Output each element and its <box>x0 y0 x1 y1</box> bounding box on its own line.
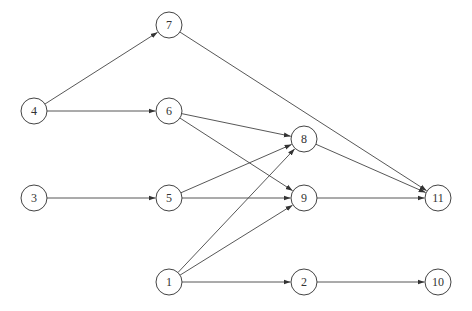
node-label: 4 <box>31 104 37 118</box>
node-5: 5 <box>156 185 182 211</box>
node-10: 10 <box>425 269 451 295</box>
node-label: 2 <box>301 275 307 289</box>
node-label: 5 <box>166 191 172 205</box>
edge-4-to-7 <box>45 32 158 104</box>
node-label: 3 <box>31 191 37 205</box>
node-label: 10 <box>432 275 444 289</box>
node-label: 7 <box>166 18 172 32</box>
graph-canvas: 1234567891011 <box>0 0 472 311</box>
edge-5-to-8 <box>181 144 292 192</box>
edge-6-to-8 <box>182 114 291 137</box>
node-1: 1 <box>156 269 182 295</box>
edge-7-to-11 <box>180 32 427 191</box>
node-label: 8 <box>301 132 307 146</box>
edges-layer <box>45 32 427 282</box>
node-11: 11 <box>425 185 451 211</box>
node-3: 3 <box>21 185 47 211</box>
nodes-layer: 1234567891011 <box>21 12 451 295</box>
directed-graph: 1234567891011 <box>0 0 472 311</box>
node-2: 2 <box>291 269 317 295</box>
node-4: 4 <box>21 98 47 124</box>
node-label: 11 <box>432 191 444 205</box>
node-7: 7 <box>156 12 182 38</box>
node-label: 1 <box>166 275 172 289</box>
node-9: 9 <box>291 185 317 211</box>
node-8: 8 <box>291 126 317 152</box>
node-6: 6 <box>156 98 182 124</box>
node-label: 6 <box>166 104 172 118</box>
edge-1-to-8 <box>178 149 295 273</box>
node-label: 9 <box>301 191 307 205</box>
edge-1-to-9 <box>180 205 293 275</box>
edge-6-to-9 <box>180 118 293 191</box>
edge-8-to-11 <box>316 144 426 192</box>
